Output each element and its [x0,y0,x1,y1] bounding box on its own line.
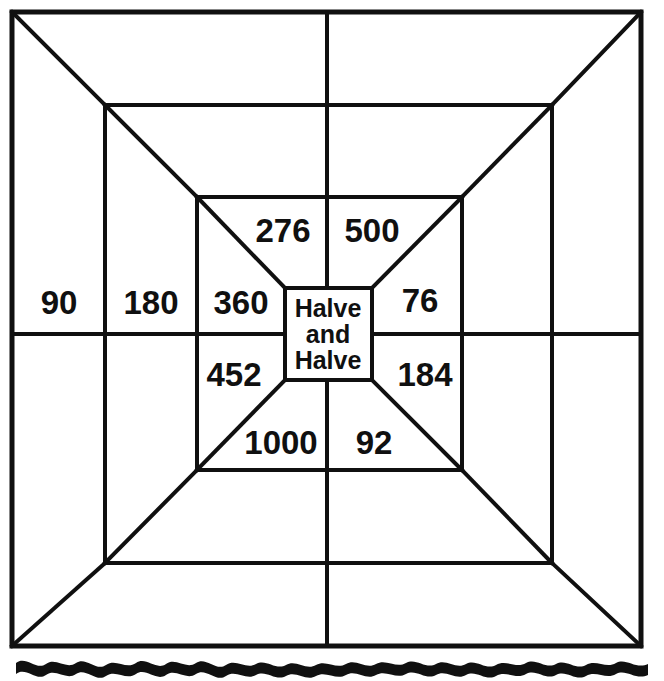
cell-right-inner-upper: 76 [402,282,439,319]
center-label-line1: Halve [295,294,362,322]
diagonal-ring2-br [462,470,552,563]
diagonal-ring2-bl [105,470,197,563]
cell-bottom-inner-left: 1000 [244,424,317,461]
cell-left-inner-lower: 452 [206,356,261,393]
center-label-line2: and [306,320,350,348]
diagonal-outer-bl [12,563,105,646]
cell-top-inner-right: 500 [344,212,399,249]
cell-left-inner: 360 [213,284,268,321]
diagonal-outer-tl [12,12,105,105]
cell-bottom-inner-right: 92 [356,424,393,461]
cell-left-outer: 90 [41,284,78,321]
diagonal-outer-tr [552,12,641,105]
cell-top-inner-left: 276 [255,212,310,249]
diagonal-ring2-tr [462,105,552,197]
diagram-page: 90 180 360 276 500 76 184 452 1000 92 Ha… [0,0,664,681]
halve-and-halve-diagram: 90 180 360 276 500 76 184 452 1000 92 Ha… [0,0,664,681]
cell-right-inner-lower: 184 [397,356,453,393]
diagonal-ring2-tl [105,105,197,197]
diagonal-outer-br [552,563,641,646]
wavy-rule-icon [16,661,648,678]
cell-left-mid: 180 [123,284,178,321]
center-label-line3: Halve [295,346,362,374]
